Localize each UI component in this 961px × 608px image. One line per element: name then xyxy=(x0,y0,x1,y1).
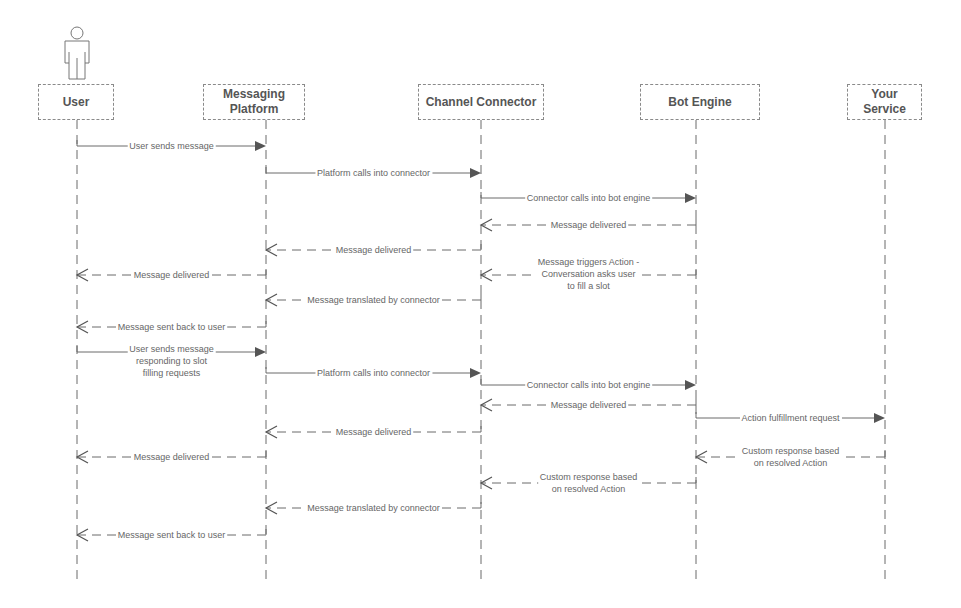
message-label: Connector calls into bot engine xyxy=(525,192,653,204)
participant-channel-connector: Channel Connector xyxy=(418,84,544,120)
arrowhead-filled-icon xyxy=(685,193,696,203)
arrowhead-filled-icon xyxy=(255,141,266,151)
participant-label: Channel Connector xyxy=(426,95,537,110)
message-label: Message sent back to user xyxy=(116,529,228,541)
arrowhead-filled-icon xyxy=(255,347,266,357)
message-label: Message delivered xyxy=(334,244,414,256)
message-label: Connector calls into bot engine xyxy=(525,379,653,391)
message-label: User sends messageresponding to slotfill… xyxy=(127,343,216,379)
participant-bot-engine: Bot Engine xyxy=(640,84,760,120)
participant-user: User xyxy=(38,84,114,120)
message-label: Platform calls into connector xyxy=(315,167,432,179)
arrowhead-filled-icon xyxy=(685,380,696,390)
message-label: Message delivered xyxy=(334,426,414,438)
message-label: Message delivered xyxy=(549,399,629,411)
message-label: Message triggers Action -Conversation as… xyxy=(536,256,642,292)
message-label: Message delivered xyxy=(132,451,212,463)
arrowhead-filled-icon xyxy=(874,413,885,423)
message-label: Message sent back to user xyxy=(116,321,228,333)
sequence-diagram: UserMessagingPlatformChannel ConnectorBo… xyxy=(0,0,961,608)
message-label: Custom response basedon resolved Action xyxy=(538,471,640,495)
participant-label: MessagingPlatform xyxy=(223,87,285,117)
message-label: Message translated by connector xyxy=(305,294,442,306)
arrowhead-filled-icon xyxy=(470,168,481,178)
participant-label: Bot Engine xyxy=(668,95,731,110)
message-label: Action fulfillment request xyxy=(739,412,841,424)
participant-label: User xyxy=(63,95,90,110)
message-label: Message delivered xyxy=(549,219,629,231)
message-label: Custom response basedon resolved Action xyxy=(740,445,842,469)
message-label: User sends message xyxy=(127,140,216,152)
arrowhead-filled-icon xyxy=(470,368,481,378)
message-label: Message delivered xyxy=(132,269,212,281)
actor-person-icon xyxy=(65,27,89,79)
participant-your-service: YourService xyxy=(847,84,922,120)
message-label: Platform calls into connector xyxy=(315,367,432,379)
participant-messaging-platform: MessagingPlatform xyxy=(203,84,305,120)
participant-label: YourService xyxy=(863,87,906,117)
message-label: Message translated by connector xyxy=(305,502,442,514)
